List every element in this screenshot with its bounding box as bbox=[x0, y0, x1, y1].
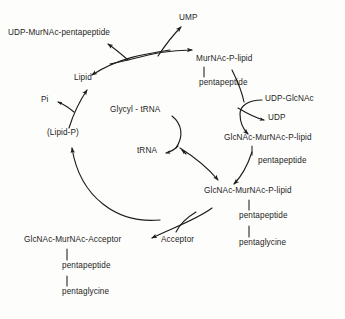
node-glcnac-murnac-acceptor: GlcNAc-MurNAc-Acceptor bbox=[24, 236, 121, 245]
node-trna: tRNA bbox=[137, 147, 157, 156]
arrow-to-lipid bbox=[92, 50, 170, 75]
node-pi: Pi bbox=[41, 96, 48, 105]
node-murnac-pentapeptide-branch: pentapeptide bbox=[199, 79, 248, 88]
arrow-to-pi bbox=[58, 102, 74, 112]
node-udp-glcnac: UDP-GlcNAc bbox=[265, 95, 314, 104]
node-lipid-p: (Lipid-P) bbox=[47, 129, 79, 138]
arrow-to-udp bbox=[238, 108, 264, 120]
node-glcnac-lower-pentapeptide: pentapeptide bbox=[239, 212, 288, 221]
arrow-to-trna bbox=[166, 146, 178, 153]
node-udp: UDP bbox=[268, 114, 286, 123]
arrow-udpglcnac-to-glcnac-murnac bbox=[240, 100, 262, 134]
arrow-cycle-to-lipidp bbox=[72, 148, 160, 220]
node-udp-murnac-pentapeptide: UDP-MurNAc-pentapeptide bbox=[8, 29, 110, 38]
node-glcnac-upper-pentapeptide: pentapeptide bbox=[258, 157, 307, 166]
node-lipid: Lipid bbox=[74, 74, 92, 83]
node-glcnac-murnac-p-lipid-upper: GlcNAc-MurNAc-P-lipid bbox=[224, 134, 312, 143]
node-glcnac-murnac-p-lipid-lower: GlcNAc-MurNAc-P-lipid bbox=[204, 187, 292, 196]
arrow-transpeptidation bbox=[180, 148, 218, 180]
node-acceptor-pentapeptide: pentapeptide bbox=[62, 262, 111, 271]
node-murnac-p-lipid: MurNAc-P-lipid bbox=[196, 55, 252, 64]
node-ump: UMP bbox=[179, 14, 198, 23]
arrow-upper-to-lower-glcnac bbox=[234, 152, 252, 184]
node-glcnac-lower-pentaglycine: pentaglycine bbox=[239, 239, 286, 248]
node-acceptor: Acceptor bbox=[161, 236, 194, 245]
arrow-to-udp-murnac-pentapeptide bbox=[108, 44, 128, 60]
node-acceptor-pentaglycine: pentaglycine bbox=[62, 288, 109, 297]
arrow-lipidp-to-lipid bbox=[69, 90, 87, 128]
line-glycyl-trna bbox=[172, 116, 181, 148]
arrow-to-murnac-p-lipid bbox=[110, 50, 192, 64]
node-glycyl-trna: Glycyl - tRNA bbox=[110, 106, 160, 115]
pathway-diagram: UDP-MurNAc-pentapeptide UMP MurNAc-P-lip… bbox=[0, 0, 345, 319]
